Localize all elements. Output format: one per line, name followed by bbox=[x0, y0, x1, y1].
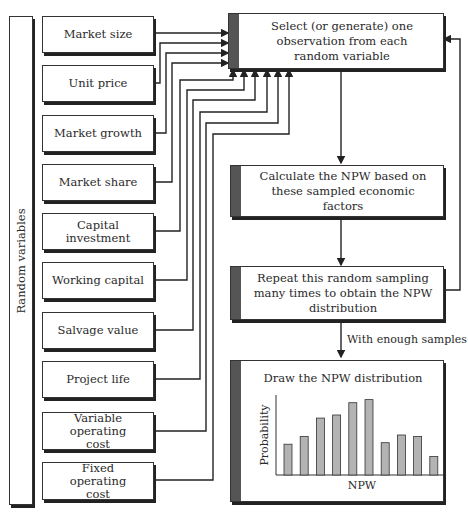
with-enough-samples-label: With enough samples bbox=[347, 333, 467, 346]
step-select-observation: Select (or generate) one observation fro… bbox=[228, 13, 444, 69]
step-repeat-sampling: Repeat this random sampling many times t… bbox=[230, 266, 444, 320]
x-axis-label: NPW bbox=[348, 479, 377, 492]
step-accent-bar bbox=[231, 361, 241, 501]
step-accent-bar bbox=[231, 166, 241, 216]
histogram-bar bbox=[284, 444, 292, 475]
histogram-bar bbox=[365, 400, 373, 475]
step-accent-bar bbox=[231, 267, 241, 319]
histogram-bar bbox=[397, 435, 405, 475]
y-axis-label: Probability bbox=[258, 404, 271, 466]
step-accent-bar bbox=[229, 14, 239, 68]
histogram-bar bbox=[333, 415, 341, 475]
histogram-bar bbox=[414, 437, 422, 475]
histogram-bar bbox=[349, 403, 357, 475]
histogram-bar bbox=[381, 443, 389, 475]
step-calculate-npw: Calculate the NPW based on these sampled… bbox=[230, 165, 444, 217]
histogram-bar bbox=[430, 457, 438, 475]
histogram-bar bbox=[316, 418, 324, 475]
npw-histogram: NPWProbability bbox=[243, 383, 443, 493]
histogram-bar bbox=[300, 437, 308, 475]
step-draw-distribution: Draw the NPW distribution NPWProbability bbox=[230, 360, 444, 502]
